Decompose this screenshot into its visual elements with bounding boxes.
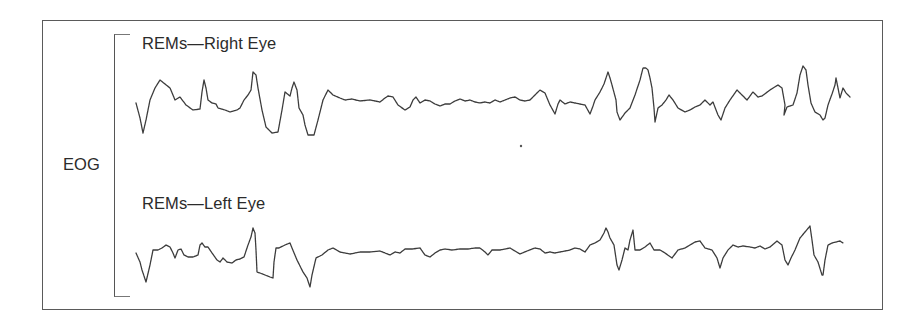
eog-figure: EOG REMs—Right Eye REMs—Left Eye — [0, 0, 920, 330]
trace-plot — [0, 0, 920, 330]
left-eye-trace — [136, 226, 843, 287]
right-eye-trace — [136, 66, 850, 135]
stray-dot — [520, 145, 522, 147]
